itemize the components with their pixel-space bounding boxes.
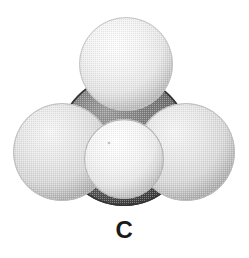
- figure-caption-label: C: [0, 216, 249, 244]
- figure-page: C: [0, 0, 249, 258]
- atom-hydrogen-top: [79, 17, 173, 111]
- atom-hydrogen-front: [84, 119, 164, 199]
- molecule-svg: [0, 0, 249, 212]
- speck-mark: [108, 142, 111, 145]
- molecule-diagram: [0, 0, 249, 212]
